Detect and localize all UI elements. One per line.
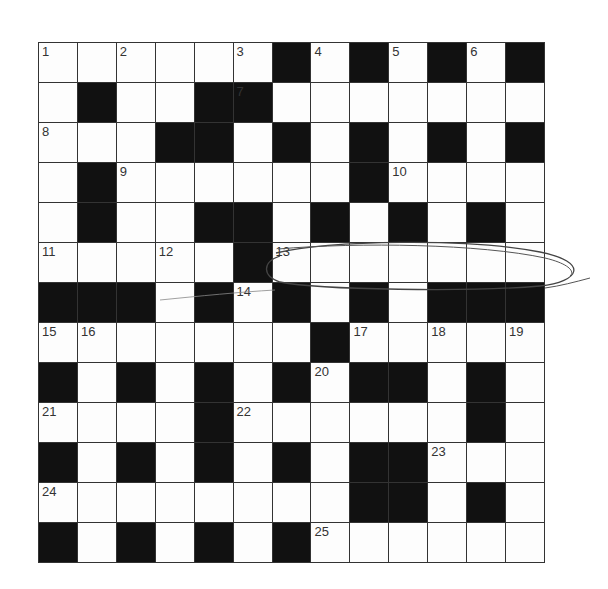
crossword-cell[interactable] [389, 83, 427, 122]
crossword-cell[interactable]: 20 [311, 363, 349, 402]
crossword-cell[interactable] [234, 323, 272, 362]
crossword-cell[interactable] [467, 443, 505, 482]
crossword-cell[interactable] [156, 443, 194, 482]
crossword-cell[interactable] [156, 403, 194, 442]
crossword-cell[interactable] [78, 123, 116, 162]
crossword-cell[interactable] [195, 483, 233, 522]
crossword-cell[interactable] [234, 443, 272, 482]
crossword-cell[interactable]: 25 [311, 523, 349, 562]
crossword-cell[interactable] [467, 243, 505, 282]
crossword-cell[interactable] [156, 523, 194, 562]
crossword-cell[interactable]: 22 [234, 403, 272, 442]
crossword-cell[interactable] [389, 243, 427, 282]
crossword-cell[interactable]: 8 [39, 123, 77, 162]
crossword-cell[interactable] [273, 483, 311, 522]
crossword-cell[interactable]: 17 [350, 323, 388, 362]
crossword-cell[interactable] [350, 203, 388, 242]
crossword-cell[interactable]: 18 [428, 323, 466, 362]
crossword-cell[interactable] [39, 203, 77, 242]
crossword-cell[interactable] [311, 83, 349, 122]
crossword-cell[interactable] [506, 163, 544, 202]
crossword-cell[interactable] [506, 243, 544, 282]
crossword-cell[interactable]: 14 [234, 283, 272, 322]
crossword-cell[interactable] [506, 363, 544, 402]
crossword-cell[interactable]: 24 [39, 483, 77, 522]
crossword-cell[interactable] [428, 163, 466, 202]
crossword-cell[interactable] [428, 203, 466, 242]
crossword-cell[interactable] [311, 243, 349, 282]
crossword-cell[interactable] [273, 323, 311, 362]
crossword-cell[interactable] [350, 403, 388, 442]
crossword-cell[interactable] [78, 43, 116, 82]
crossword-cell[interactable]: 4 [311, 43, 349, 82]
crossword-cell[interactable] [39, 83, 77, 122]
crossword-cell[interactable] [311, 163, 349, 202]
crossword-cell[interactable] [156, 363, 194, 402]
crossword-cell[interactable] [467, 83, 505, 122]
crossword-cell[interactable] [506, 83, 544, 122]
crossword-cell[interactable] [78, 523, 116, 562]
crossword-cell[interactable] [467, 123, 505, 162]
crossword-cell[interactable] [389, 323, 427, 362]
crossword-cell[interactable] [234, 363, 272, 402]
crossword-cell[interactable]: 10 [389, 163, 427, 202]
crossword-cell[interactable] [350, 243, 388, 282]
crossword-cell[interactable] [78, 363, 116, 402]
crossword-cell[interactable]: 9 [117, 163, 155, 202]
crossword-cell[interactable] [78, 403, 116, 442]
crossword-cell[interactable] [117, 243, 155, 282]
crossword-cell[interactable] [311, 283, 349, 322]
crossword-cell[interactable] [234, 483, 272, 522]
crossword-cell[interactable]: 11 [39, 243, 77, 282]
crossword-cell[interactable] [156, 43, 194, 82]
crossword-cell[interactable] [273, 83, 311, 122]
crossword-cell[interactable]: 5 [389, 43, 427, 82]
crossword-cell[interactable] [506, 523, 544, 562]
crossword-cell[interactable] [506, 483, 544, 522]
crossword-cell[interactable] [117, 123, 155, 162]
crossword-cell[interactable] [350, 83, 388, 122]
crossword-cell[interactable] [156, 83, 194, 122]
crossword-cell[interactable] [467, 163, 505, 202]
crossword-cell[interactable] [195, 243, 233, 282]
crossword-cell[interactable] [467, 323, 505, 362]
crossword-cell[interactable] [195, 323, 233, 362]
crossword-cell[interactable] [506, 403, 544, 442]
crossword-cell[interactable] [234, 123, 272, 162]
crossword-cell[interactable] [311, 443, 349, 482]
crossword-cell[interactable] [117, 323, 155, 362]
crossword-cell[interactable] [234, 163, 272, 202]
crossword-cell[interactable]: 3 [234, 43, 272, 82]
crossword-cell[interactable] [467, 523, 505, 562]
crossword-cell[interactable] [78, 243, 116, 282]
crossword-cell[interactable] [311, 403, 349, 442]
crossword-cell[interactable] [428, 523, 466, 562]
crossword-cell[interactable] [506, 203, 544, 242]
crossword-cell[interactable] [117, 403, 155, 442]
crossword-cell[interactable] [428, 243, 466, 282]
crossword-cell[interactable] [389, 403, 427, 442]
crossword-cell[interactable] [117, 483, 155, 522]
crossword-cell[interactable] [506, 443, 544, 482]
crossword-cell[interactable] [311, 483, 349, 522]
crossword-cell[interactable]: 23 [428, 443, 466, 482]
crossword-cell[interactable] [389, 123, 427, 162]
crossword-cell[interactable] [195, 43, 233, 82]
crossword-cell[interactable]: 12 [156, 243, 194, 282]
crossword-cell[interactable]: 2 [117, 43, 155, 82]
crossword-cell[interactable] [273, 403, 311, 442]
crossword-cell[interactable] [428, 363, 466, 402]
crossword-cell[interactable] [195, 163, 233, 202]
crossword-cell[interactable]: 16 [78, 323, 116, 362]
crossword-cell[interactable] [156, 283, 194, 322]
crossword-cell[interactable] [428, 483, 466, 522]
crossword-cell[interactable] [156, 483, 194, 522]
crossword-cell[interactable] [39, 163, 77, 202]
crossword-cell[interactable] [156, 203, 194, 242]
crossword-cell[interactable] [273, 163, 311, 202]
crossword-cell[interactable] [117, 83, 155, 122]
crossword-cell[interactable] [273, 203, 311, 242]
crossword-cell[interactable]: 21 [39, 403, 77, 442]
crossword-cell[interactable] [428, 83, 466, 122]
crossword-cell[interactable]: 15 [39, 323, 77, 362]
